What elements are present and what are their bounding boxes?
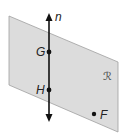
line-label-n: n	[55, 10, 62, 24]
point-g	[47, 50, 52, 55]
geometry-diagram: n G H F ℛ	[0, 0, 128, 139]
point-label-h: H	[36, 83, 45, 97]
point-label-g: G	[36, 45, 45, 59]
arrow-up-icon	[46, 13, 53, 21]
point-label-f: F	[100, 108, 108, 122]
point-f	[92, 112, 96, 116]
plane-label-r: ℛ	[103, 70, 112, 83]
arrow-down-icon	[46, 114, 53, 122]
point-h	[47, 88, 52, 93]
